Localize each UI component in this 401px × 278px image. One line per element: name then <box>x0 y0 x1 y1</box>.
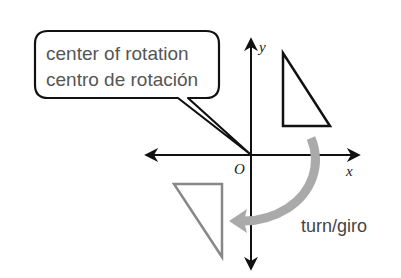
callout-text-english: center of rotation <box>46 43 189 64</box>
turn-label: turn/giro <box>301 216 367 236</box>
callout-text-spanish: centro de rotación <box>46 69 198 90</box>
rotation-arc <box>244 138 315 221</box>
x-axis-label: x <box>345 163 353 179</box>
y-axis-label: y <box>257 39 266 55</box>
image-triangle <box>174 184 222 257</box>
origin-label: O <box>234 161 245 177</box>
rotation-diagram: center of rotation centro de rotación y … <box>0 0 401 278</box>
center-of-rotation-callout: center of rotation centro de rotación <box>35 31 250 154</box>
preimage-triangle <box>283 53 330 126</box>
